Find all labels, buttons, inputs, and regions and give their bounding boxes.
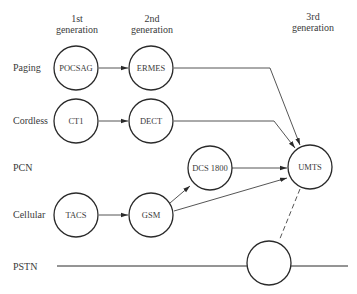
svg-text:1st: 1st (71, 13, 83, 24)
svg-text:generation: generation (131, 24, 173, 35)
edge-umts-pstn-dashed (279, 189, 300, 241)
svg-text:generation: generation (292, 22, 334, 33)
svg-text:ERMES: ERMES (137, 63, 166, 73)
edge-ermes-umts (174, 68, 300, 145)
svg-text:TACS: TACS (65, 210, 86, 220)
edge-dect-umts (174, 121, 295, 148)
row-label-pcn: PCN (13, 162, 32, 173)
svg-text:DECT: DECT (140, 116, 163, 126)
row-label-pstn: PSTN (13, 261, 37, 272)
node-gsm: GSM (129, 193, 173, 237)
node-dcs1800: DCS 1800 (188, 146, 232, 190)
svg-text:POCSAG: POCSAG (59, 63, 93, 73)
header-2nd-generation: 2nd generation (131, 13, 173, 35)
node-dect: DECT (129, 99, 173, 143)
node-ermes: ERMES (129, 46, 173, 90)
svg-text:generation: generation (56, 24, 98, 35)
svg-text:GSM: GSM (142, 210, 161, 220)
node-tacs: TACS (54, 193, 98, 237)
node-pstn (247, 241, 291, 285)
row-label-cordless: Cordless (13, 115, 48, 126)
svg-text:2nd: 2nd (145, 13, 160, 24)
node-pocsag: POCSAG (54, 46, 98, 90)
node-ct1: CT1 (54, 99, 98, 143)
edge-gsm-umts (174, 178, 287, 211)
header-1st-generation: 1st generation (56, 13, 98, 35)
edge-gsm-dcs1800 (170, 186, 190, 203)
header-3rd-generation: 3rd generation (292, 11, 334, 33)
node-umts: UMTS (288, 145, 332, 189)
svg-text:CT1: CT1 (68, 116, 83, 126)
svg-text:UMTS: UMTS (298, 162, 322, 172)
svg-text:DCS 1800: DCS 1800 (192, 163, 228, 173)
row-label-paging: Paging (13, 62, 41, 73)
generations-diagram: 1st generation 2nd generation 3rd genera… (0, 0, 357, 294)
row-label-cellular: Cellular (13, 209, 46, 220)
svg-text:3rd: 3rd (306, 11, 319, 22)
